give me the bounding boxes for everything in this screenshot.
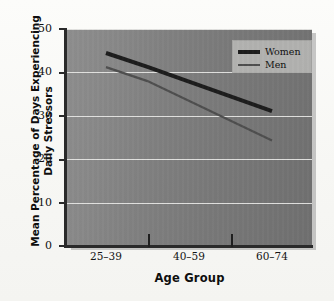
y-axis-title: Mean Percentage of Days Experiencing Dai… bbox=[29, 15, 55, 247]
chart-figure: Women Men 50 40 30 20 10 0 25–39 40–59 6… bbox=[0, 0, 334, 301]
plot-area: Women Men bbox=[67, 29, 312, 246]
x-tick-mark-2 bbox=[231, 234, 233, 247]
x-tick-label-40-59: 40–59 bbox=[151, 250, 227, 262]
y-tick-mark-10 bbox=[59, 202, 65, 204]
legend-swatch-men-icon bbox=[238, 64, 260, 66]
y-tick-mark-0 bbox=[59, 245, 65, 247]
x-axis-line bbox=[64, 245, 313, 248]
y-tick-mark-20 bbox=[59, 159, 65, 161]
y-axis-title-line2: Daily Stressors bbox=[42, 86, 54, 176]
chart-legend: Women Men bbox=[232, 40, 312, 73]
y-tick-mark-30 bbox=[59, 115, 65, 117]
y-axis-title-line1: Mean Percentage of Days Experiencing bbox=[29, 15, 41, 246]
x-axis-title: Age Group bbox=[67, 271, 312, 285]
legend-item-men: Men bbox=[238, 58, 306, 71]
y-axis-line bbox=[64, 28, 67, 248]
x-tick-label-60-74: 60–74 bbox=[234, 250, 310, 262]
y-tick-mark-50 bbox=[59, 28, 65, 30]
x-tick-label-25-39: 25–39 bbox=[68, 250, 144, 262]
legend-swatch-women-icon bbox=[238, 50, 260, 54]
legend-label-women: Women bbox=[265, 46, 301, 57]
y-tick-mark-40 bbox=[59, 72, 65, 74]
legend-label-men: Men bbox=[265, 59, 286, 70]
legend-item-women: Women bbox=[238, 45, 306, 58]
x-tick-mark-1 bbox=[148, 234, 150, 247]
